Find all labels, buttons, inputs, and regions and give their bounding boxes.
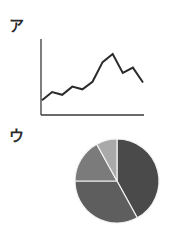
pie-chart (0, 0, 196, 244)
